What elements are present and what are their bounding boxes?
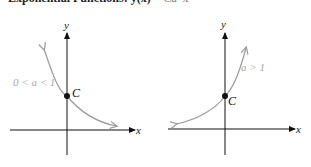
- condition-label: 0 < a < 1: [13, 76, 55, 88]
- condition-label: a > 1: [241, 61, 265, 73]
- c-label: C: [72, 86, 81, 100]
- decay-graph: y x C 0 < a < 1: [10, 19, 141, 155]
- y-label: y: [63, 19, 69, 31]
- x-label: x: [135, 124, 141, 136]
- x-label: x: [295, 123, 301, 135]
- growth-graph: y x C a > 1: [168, 18, 301, 155]
- y-label: y: [220, 18, 226, 30]
- c-label: C: [228, 94, 237, 108]
- growth-curve: [176, 48, 246, 124]
- point-c: [64, 93, 70, 99]
- exponential-graphs: y x C 0 < a < 1 y x C a > 1: [0, 0, 311, 167]
